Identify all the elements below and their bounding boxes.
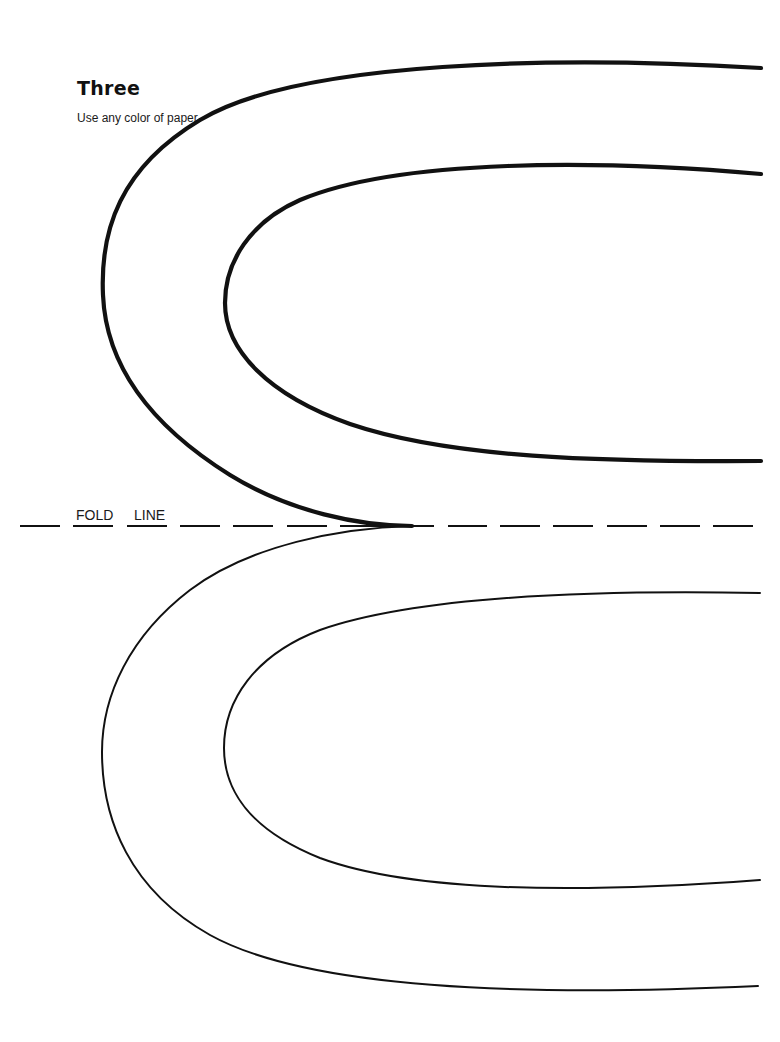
bottom-outer-curve bbox=[102, 526, 758, 990]
top-outer-curve bbox=[103, 63, 761, 526]
template-drawing bbox=[0, 0, 780, 1042]
bottom-shape-outline bbox=[102, 526, 760, 990]
top-inner-curve bbox=[225, 165, 761, 461]
top-shape-outline bbox=[103, 63, 761, 526]
bottom-inner-curve bbox=[224, 592, 760, 888]
